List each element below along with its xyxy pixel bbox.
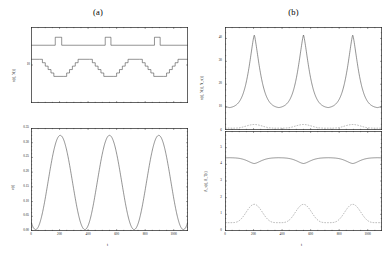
x-tick-label: 1000 [164,233,184,236]
y-tick-label: 30 [205,59,222,62]
plot-a-top [31,27,188,103]
x-tick-label: 0 [215,233,235,236]
y-axis-label-a-top: n(t), N(t) [12,69,16,82]
y-tick-label: 2 [209,196,222,199]
x-tick-label: 0 [21,233,41,236]
plot-b-bottom [225,131,382,231]
x-tick-label: 600 [107,233,127,236]
x-tick-label: 200 [50,233,70,236]
x-axis-label-a-bottom: t [107,243,108,247]
y-tick-label: 0.25 [8,155,29,158]
y-tick-label: 1 [209,212,222,215]
plot-b-top [225,27,382,130]
y-tick-label: 0.35 [8,126,29,129]
panel-a-title: (a) [0,7,196,17]
x-tick-label: 400 [272,233,292,236]
y-tick-label: 0 [209,229,222,232]
y-tick-label: 3 [209,179,222,182]
y-axis-label-a-bottom: v(t) [11,185,15,190]
plot-a-bottom [31,128,188,231]
y-tick-label-a-top: 10 [13,63,30,66]
x-tick-label: 1000 [358,233,378,236]
y-tick-label: 0.20 [8,170,29,173]
y-tick-label: 0.00 [8,229,29,232]
y-tick-label: 4 [209,162,222,165]
x-tick-label: 800 [329,233,349,236]
x-tick-label: 800 [135,233,155,236]
y-tick-label: 20 [205,82,222,85]
panel-b-title: (b) [196,7,391,17]
panel-b: (b) 10203040 n(t), N(t), N_s(t) 0123456 … [196,0,391,256]
y-tick-label: 10 [205,105,222,108]
y-tick-label: 0.10 [8,200,29,203]
y-tick-label: 5 [209,146,222,149]
y-tick-label: 0.30 [8,141,29,144]
y-tick-label: 0.05 [8,214,29,217]
x-tick-label: 600 [301,233,321,236]
y-axis-label-b-top: n(t), N(t), N_s(t) [200,76,204,100]
y-tick-label: 40 [205,36,222,39]
panel-a: (a) 10 n(t), N(t) 0.000.050.100.150.200.… [0,0,196,256]
x-tick-label: 400 [78,233,98,236]
x-axis-label-b-bottom: t [301,243,302,247]
y-tick-label: 6 [209,129,222,132]
figure-canvas: (a) 10 n(t), N(t) 0.000.050.100.150.200.… [0,0,391,256]
y-axis-label-b-bottom: A_s(t), A_T(t) [204,171,208,192]
x-tick-label: 200 [244,233,264,236]
